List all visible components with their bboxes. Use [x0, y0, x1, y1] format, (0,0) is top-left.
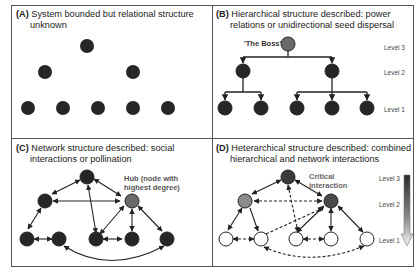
- hub-label: Hub (node with highest degree): [124, 174, 180, 192]
- hub-label-line2: highest degree): [124, 183, 180, 192]
- hub-node: [125, 194, 139, 208]
- critical-label-line1: Critical: [309, 172, 334, 181]
- boss-label: 'The Boss': [244, 39, 281, 50]
- critical-interaction-label: Critical interaction: [309, 172, 347, 190]
- panel-b-nodes: [218, 37, 374, 115]
- hub-label-line1: Hub (node with: [124, 174, 178, 183]
- panel-d-level-1: Level 1: [379, 236, 400, 247]
- panel-d-level-2: Level 2: [379, 200, 400, 211]
- panel-a-nodes: [21, 39, 175, 115]
- level-gradient-arrow: [401, 175, 413, 246]
- panel-b-level-2: Level 2: [384, 68, 405, 79]
- panel-d-level-3: Level 3: [379, 174, 400, 185]
- critical-label-line2: interaction: [309, 181, 347, 190]
- panel-d-dashed-edges: [233, 185, 364, 257]
- panel-b-level-3: Level 3: [384, 43, 405, 54]
- diagram-canvas: [0, 0, 420, 274]
- panel-b-level-1: Level 1: [384, 105, 405, 116]
- critical-node: [324, 194, 338, 208]
- boss-node: [281, 37, 295, 51]
